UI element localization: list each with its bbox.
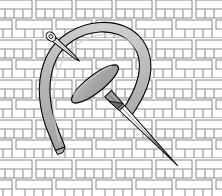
illustration-canvas xyxy=(0,0,222,196)
figure-root xyxy=(0,0,222,196)
